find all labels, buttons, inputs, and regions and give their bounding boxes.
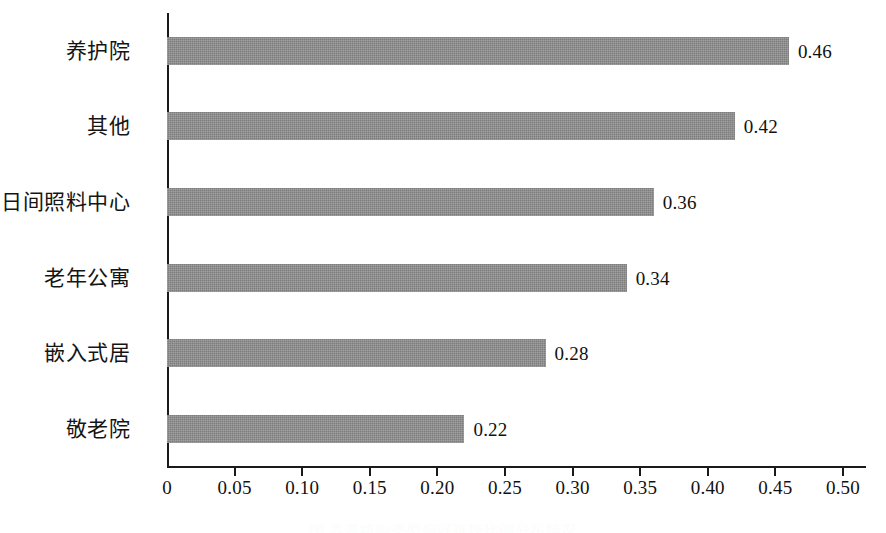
category-label: 敬老院: [0, 419, 130, 440]
bar-value-label: 0.42: [744, 117, 778, 136]
x-tick-mark: [842, 468, 844, 476]
bar-chart: 0.46养护院0.42其他0.36日间照料中心0.34老年公寓0.28嵌入式居0…: [0, 0, 886, 533]
bar-row: 0.36日间照料中心: [167, 164, 866, 240]
bar-row: 0.28嵌入式居: [167, 316, 866, 392]
figure-caption: 图 养老机构类型偏好选择比例分布情况: [0, 524, 886, 533]
bar-row: 0.22敬老院: [167, 391, 866, 467]
x-tick-label: 0.50: [826, 478, 860, 497]
bar-row: 0.42其他: [167, 89, 866, 165]
bar: [167, 188, 654, 216]
x-tick-mark: [639, 468, 641, 476]
bar-value-label: 0.36: [663, 193, 697, 212]
bar-row: 0.46养护院: [167, 13, 866, 89]
bar: [167, 339, 546, 367]
x-tick-mark: [234, 468, 236, 476]
bar-value-label: 0.22: [473, 420, 507, 439]
x-tick-label: 0.45: [758, 478, 792, 497]
x-tick-mark: [774, 468, 776, 476]
bar-value-label: 0.34: [636, 268, 670, 287]
bar: [167, 112, 735, 140]
x-tick-label: 0.15: [353, 478, 387, 497]
category-label: 其他: [0, 116, 130, 137]
x-tick-label: 0: [162, 478, 172, 497]
x-tick-mark: [301, 468, 303, 476]
x-tick-label: 0.40: [691, 478, 725, 497]
x-tick-label: 0.10: [285, 478, 319, 497]
category-label: 嵌入式居: [0, 343, 130, 364]
x-tick-label: 0.05: [218, 478, 252, 497]
bar-value-label: 0.28: [555, 344, 589, 363]
bar: [167, 415, 464, 443]
x-tick-label: 0.30: [556, 478, 590, 497]
bar: [167, 37, 789, 65]
x-tick-label: 0.25: [488, 478, 522, 497]
x-tick-mark: [504, 468, 506, 476]
bar: [167, 264, 627, 292]
x-tick-mark: [572, 468, 574, 476]
category-label: 老年公寓: [0, 267, 130, 288]
x-tick-mark: [436, 468, 438, 476]
bar-row: 0.34老年公寓: [167, 240, 866, 316]
x-tick-label: 0.20: [420, 478, 454, 497]
x-tick-mark: [369, 468, 371, 476]
x-tick-mark: [707, 468, 709, 476]
category-label: 养护院: [0, 40, 130, 61]
plot-area: 0.46养护院0.42其他0.36日间照料中心0.34老年公寓0.28嵌入式居0…: [167, 13, 866, 467]
x-tick-label: 0.35: [623, 478, 657, 497]
category-label: 日间照料中心: [0, 192, 130, 213]
bar-value-label: 0.46: [798, 41, 832, 60]
